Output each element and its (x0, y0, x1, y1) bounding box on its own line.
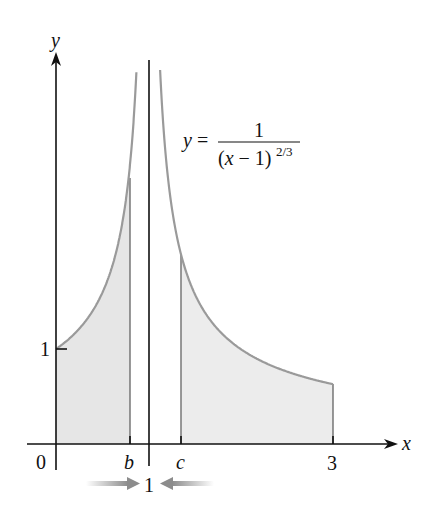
b-label: b (124, 451, 134, 473)
equation-lhs: y = (181, 129, 208, 152)
three-label: 3 (327, 452, 337, 474)
y-one-label: 1 (40, 338, 50, 360)
shaded-region-right (182, 256, 333, 444)
c-label: c (176, 451, 185, 473)
x-axis-label: x (401, 432, 411, 454)
equation-numerator: 1 (254, 119, 264, 141)
equation-exponent: 2/3 (276, 144, 293, 159)
origin-label: 0 (36, 451, 46, 473)
shaded-region-left (56, 166, 130, 444)
right-pointing-arrow-icon (86, 477, 140, 490)
asymptote-one-label: 1 (144, 474, 154, 496)
left-pointing-arrow-icon (160, 477, 214, 490)
function-equation: y = 1 (x − 1) 2/3 (181, 119, 300, 170)
y-axis-label: y (49, 29, 60, 52)
equation-denominator: (x − 1) (218, 147, 272, 170)
improper-integral-diagram: y x 0 b c 3 1 1 y = 1 (x − 1) 2/3 (0, 0, 440, 515)
